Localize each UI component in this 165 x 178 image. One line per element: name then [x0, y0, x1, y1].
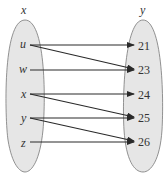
codomain-element-25: 25: [138, 111, 150, 125]
domain-label: x: [20, 3, 27, 17]
arrow-u-23: [30, 45, 134, 69]
codomain-element-21: 21: [138, 39, 150, 53]
domain-element-y: y: [20, 111, 27, 125]
domain-element-w: w: [19, 62, 27, 76]
domain-element-x: x: [20, 87, 27, 101]
arrow-y-26: [30, 118, 134, 141]
mapping-diagram: x y u w x y z 21 23 24 25 26: [0, 0, 165, 178]
codomain-element-26: 26: [138, 135, 150, 149]
codomain-label: y: [139, 3, 146, 17]
domain-element-u: u: [20, 37, 26, 51]
arrow-x-25: [30, 94, 134, 117]
domain-element-z: z: [20, 136, 26, 150]
codomain-element-23: 23: [138, 63, 150, 77]
codomain-element-24: 24: [138, 88, 150, 102]
